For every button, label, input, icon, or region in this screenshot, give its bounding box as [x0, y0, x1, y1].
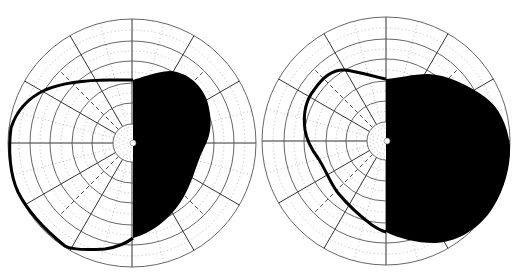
isopter-boundary [10, 80, 133, 250]
right-visual-field-chart [262, 17, 510, 265]
minor-meridian [12, 148, 113, 175]
visual-field-figure [0, 0, 518, 279]
scotoma-region [133, 71, 211, 238]
minor-meridian [266, 146, 367, 173]
minor-meridian [12, 111, 113, 138]
minor-meridian [266, 109, 367, 136]
fixation-point [384, 138, 390, 144]
scotoma-region [386, 74, 510, 243]
isopter-boundary [304, 70, 386, 232]
minor-meridian [100, 23, 127, 124]
minor-meridian [354, 159, 381, 260]
left-visual-field-chart [8, 19, 256, 267]
fixation-point [130, 140, 136, 146]
oblique-meridian [60, 156, 119, 215]
